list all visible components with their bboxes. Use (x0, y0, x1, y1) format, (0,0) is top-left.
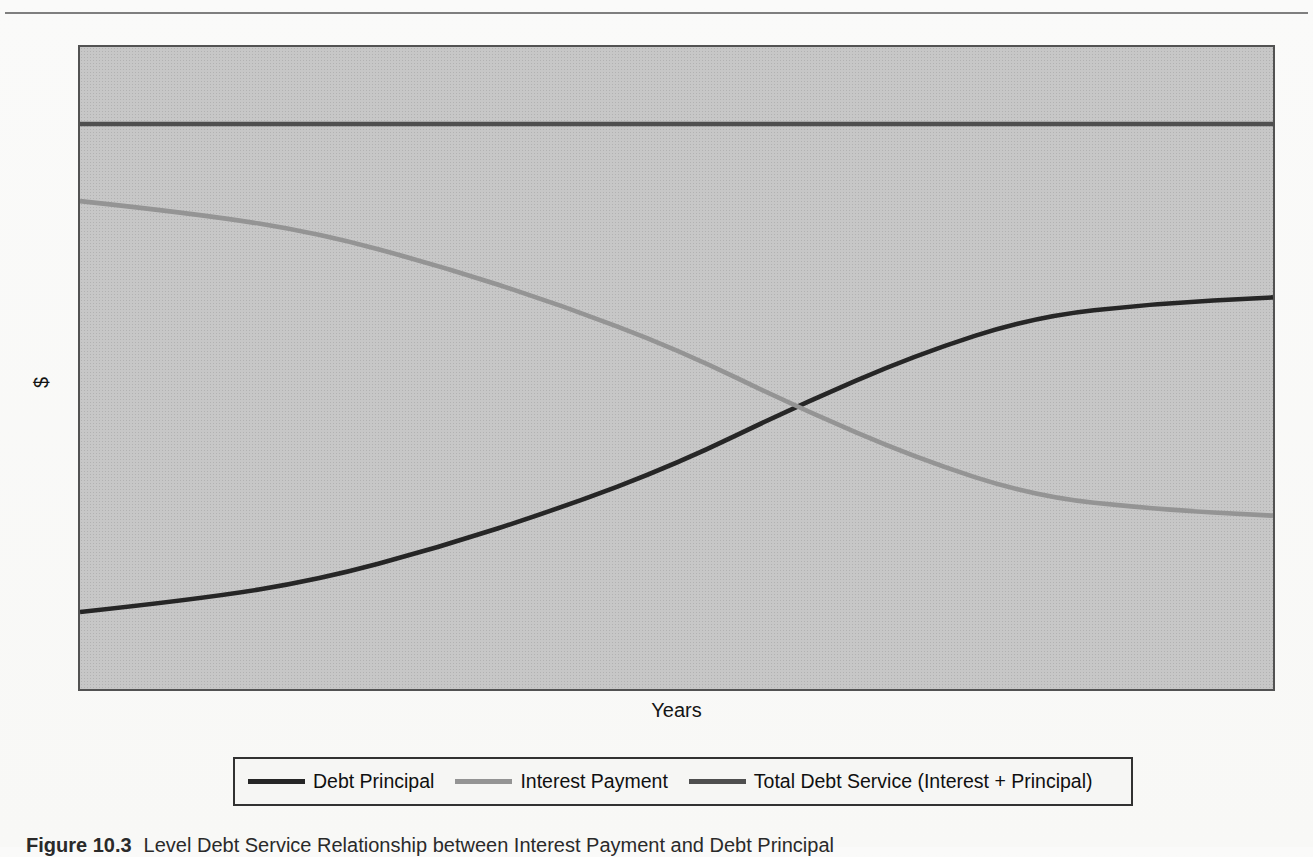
figure-caption-number: Figure 10.3 (26, 834, 132, 856)
legend-swatch-debt-principal (248, 779, 305, 784)
series-line-debt-principal (80, 297, 1273, 612)
page-top-rule (5, 12, 1308, 14)
legend-swatch-interest-payment (455, 779, 512, 784)
legend-label-total-debt-service: Total Debt Service (Interest + Principal… (754, 770, 1093, 793)
figure-caption-text: Level Debt Service Relationship between … (144, 834, 834, 856)
legend-item-interest-payment: Interest Payment (455, 770, 667, 793)
legend-item-total-debt-service: Total Debt Service (Interest + Principal… (689, 770, 1093, 793)
chart-canvas (80, 47, 1273, 689)
legend-label-interest-payment: Interest Payment (520, 770, 667, 793)
plot-area (78, 45, 1275, 691)
x-axis-label: Years (78, 699, 1275, 722)
legend: Debt PrincipalInterest PaymentTotal Debt… (233, 757, 1133, 806)
series-line-interest-payment (80, 201, 1273, 516)
y-axis-label: $ (30, 377, 53, 388)
legend-label-debt-principal: Debt Principal (313, 770, 434, 793)
legend-swatch-total-debt-service (689, 779, 746, 784)
legend-item-debt-principal: Debt Principal (248, 770, 434, 793)
figure-caption: Figure 10.3Level Debt Service Relationsh… (26, 834, 834, 857)
